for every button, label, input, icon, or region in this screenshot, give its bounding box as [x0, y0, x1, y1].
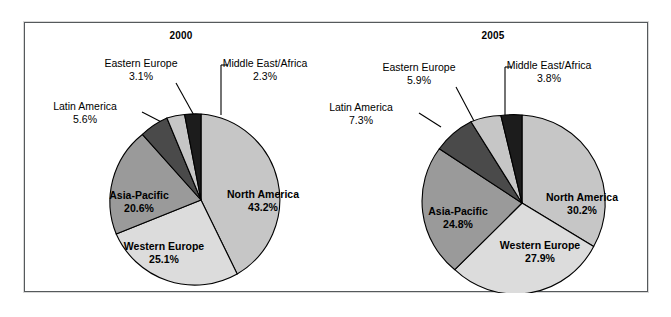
- pie-stage-2005: North America 30.2% Western Europe 27.9%…: [337, 23, 649, 293]
- pie-chart-2000: 2000: [25, 23, 337, 293]
- pie-label-eastern-europe: Eastern Europe 5.9%: [359, 61, 479, 86]
- pie-label-north-america: North America 30.2%: [529, 191, 635, 216]
- pie-chart-2005: 2005: [337, 23, 649, 293]
- pie-label-asia-pacific: Asia-Pacific 20.6%: [97, 189, 181, 214]
- pie-label-western-europe: Western Europe 27.9%: [485, 239, 595, 264]
- pie-label-latin-america: Latin America 5.6%: [29, 100, 141, 125]
- pie-label-middle-east-africa: Middle East/Africa 2.3%: [203, 57, 327, 82]
- pie-label-north-america: North America 43.2%: [211, 188, 315, 213]
- pie-label-latin-america: Latin America 7.3%: [305, 101, 417, 126]
- leader-line-latin-america: [419, 113, 441, 127]
- pie-label-asia-pacific: Asia-Pacific 24.8%: [415, 205, 501, 230]
- pie-label-western-europe: Western Europe 25.1%: [109, 240, 219, 265]
- pie-label-middle-east-africa: Middle East/Africa 3.8%: [487, 59, 611, 84]
- chart-frame: 2000: [24, 22, 648, 292]
- pie-stage-2000: North America 43.2% Western Europe 25.1%…: [25, 23, 337, 293]
- pie-label-eastern-europe: Eastern Europe 3.1%: [81, 57, 201, 82]
- leader-line-eastern-europe: [456, 87, 474, 121]
